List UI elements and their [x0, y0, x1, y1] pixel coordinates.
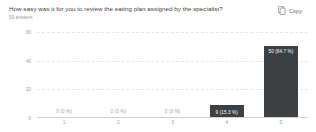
bar-label-1: 0 (0 %) — [56, 109, 72, 114]
bar-series: 0 (0 %) 0 (0 %) 0 (0 %) 9 (15.3 %) 50 (8 — [37, 32, 308, 118]
bar-label-3: 0 (0 %) — [165, 109, 181, 114]
plot-area: 0 (0 %) 0 (0 %) 0 (0 %) 9 (15.3 %) 50 (8 — [37, 32, 308, 118]
table-row[interactable] — [264, 46, 298, 118]
bar-group-4: 9 (15.3 %) — [200, 32, 254, 118]
form-response-card: How easy was it for you to review the ea… — [0, 0, 316, 132]
bar-group-5: 50 (84.7 %) — [254, 32, 308, 118]
y-tick-60: 60 — [26, 30, 31, 35]
x-axis-labels: 1 2 3 4 5 — [37, 120, 308, 125]
y-tick-40: 40 — [26, 58, 31, 63]
x-tick-5: 5 — [254, 120, 308, 125]
copy-icon — [278, 6, 286, 15]
y-axis: 0 20 40 60 — [0, 32, 34, 118]
x-axis-line — [37, 117, 308, 118]
y-tick-20: 20 — [26, 87, 31, 92]
x-tick-2: 2 — [91, 120, 145, 125]
x-tick-4: 4 — [200, 120, 254, 125]
bar-label-5: 50 (84.7 %) — [268, 49, 293, 54]
bar-group-1: 0 (0 %) — [37, 32, 91, 118]
copy-button[interactable]: Copy — [278, 6, 302, 15]
copy-button-label: Copy — [289, 8, 302, 14]
answers-count: 59 answers — [9, 14, 223, 21]
page-title: How easy was it for you to review the ea… — [9, 5, 223, 13]
bar-group-3: 0 (0 %) — [145, 32, 199, 118]
bar-chart: 0 20 40 60 0 (0 %) 0 (0 %) 0 (0 %) — [0, 28, 316, 132]
y-tick-0: 0 — [28, 116, 31, 121]
x-tick-1: 1 — [37, 120, 91, 125]
bar-label-2: 0 (0 %) — [111, 109, 127, 114]
x-tick-3: 3 — [145, 120, 199, 125]
bar-label-4: 9 (15.3 %) — [216, 110, 238, 115]
bar-group-2: 0 (0 %) — [91, 32, 145, 118]
question-block: How easy was it for you to review the ea… — [6, 5, 223, 21]
card-header: How easy was it for you to review the ea… — [6, 5, 310, 21]
